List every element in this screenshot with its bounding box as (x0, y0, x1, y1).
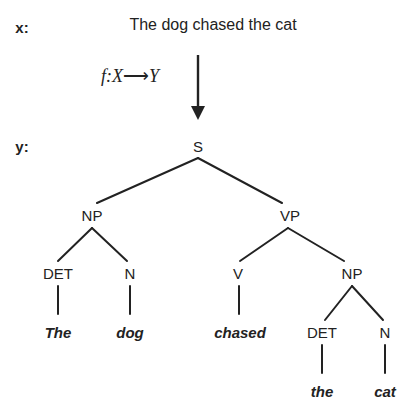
tree-node-s: S (193, 139, 203, 154)
mapping-function-tail: Y (149, 66, 159, 86)
tree-edge (92, 228, 127, 261)
tree-terminal-w_the1: The (45, 325, 72, 340)
mapping-function-label: f:X⟶Y (101, 67, 159, 85)
tree-terminal-w_cat: cat (374, 384, 396, 399)
tree-edge (58, 228, 92, 261)
input-sentence: The dog chased the cat (129, 17, 296, 33)
tree-terminal-w_dog: dog (116, 325, 144, 340)
tree-node-det1: DET (43, 266, 73, 281)
tree-edge (240, 228, 288, 261)
tree-edge (288, 228, 344, 261)
down-arrow-icon (191, 55, 205, 120)
tree-edge (97, 158, 198, 203)
tree-node-vp: VP (280, 208, 300, 223)
tree-edge (198, 158, 282, 203)
output-row-label: y: (15, 139, 29, 154)
mapping-function-head: f:X (101, 66, 123, 86)
tree-node-det2: DET (307, 325, 337, 340)
tree-node-v: V (233, 266, 243, 281)
parse-tree-figure: x: The dog chased the cat f:X⟶Y y: SNPVP… (0, 0, 420, 409)
tree-node-n1: N (125, 266, 136, 281)
rightwards-arrow-icon: ⟶ (123, 66, 149, 86)
tree-terminal-w_chased: chased (214, 325, 266, 340)
tree-node-np1: NP (82, 208, 103, 223)
tree-edge (352, 286, 383, 320)
tree-node-np2: NP (342, 266, 363, 281)
tree-terminal-w_the2: the (311, 384, 334, 399)
tree-edges (0, 0, 420, 409)
tree-node-n2: N (380, 325, 391, 340)
input-row-label: x: (15, 20, 29, 35)
tree-edge (325, 286, 352, 320)
